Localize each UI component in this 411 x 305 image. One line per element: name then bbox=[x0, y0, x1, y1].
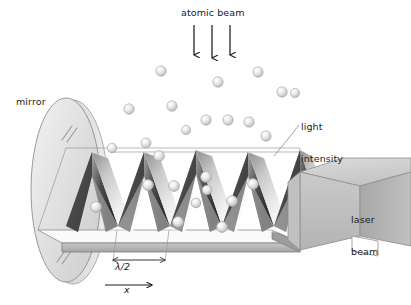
standing-wave-diagram bbox=[0, 0, 411, 305]
laser-beam-tip bbox=[288, 172, 300, 250]
atom bbox=[244, 117, 254, 127]
light-intensity-label: light intensity bbox=[301, 101, 343, 175]
atom bbox=[217, 222, 228, 233]
atom bbox=[169, 181, 180, 192]
atom bbox=[173, 217, 184, 228]
base-plate bbox=[38, 230, 300, 252]
atom bbox=[290, 88, 299, 97]
atom bbox=[124, 104, 134, 114]
atom bbox=[277, 87, 287, 97]
laser-beam-label-line1: laser bbox=[351, 215, 378, 226]
atom bbox=[156, 66, 166, 76]
atom bbox=[248, 179, 259, 190]
atom bbox=[213, 77, 223, 87]
atom bbox=[91, 202, 102, 213]
atom bbox=[261, 131, 271, 141]
x-axis-label: x bbox=[124, 285, 130, 296]
atom bbox=[202, 185, 212, 195]
atom bbox=[143, 180, 154, 191]
light-intensity-label-line2: intensity bbox=[301, 154, 343, 165]
half-wavelength-label: λ/2 bbox=[115, 262, 130, 273]
atom bbox=[107, 143, 117, 153]
atom bbox=[223, 115, 233, 125]
atom bbox=[201, 172, 212, 183]
atom bbox=[167, 101, 177, 111]
atom bbox=[191, 198, 201, 208]
atomic-beam-label: atomic beam bbox=[181, 8, 245, 19]
atom bbox=[141, 138, 151, 148]
atom bbox=[154, 151, 165, 162]
atom bbox=[181, 125, 190, 134]
laser-beam-label: laser beam bbox=[351, 194, 378, 268]
atom bbox=[201, 115, 211, 125]
base-plate-front bbox=[62, 243, 300, 252]
mirror-face bbox=[31, 98, 101, 282]
laser-beam-label-line2: beam bbox=[351, 247, 378, 258]
atom bbox=[227, 196, 238, 207]
light-intensity-label-line1: light bbox=[301, 122, 343, 133]
mirror-label: mirror bbox=[16, 97, 46, 108]
atom bbox=[253, 67, 263, 77]
